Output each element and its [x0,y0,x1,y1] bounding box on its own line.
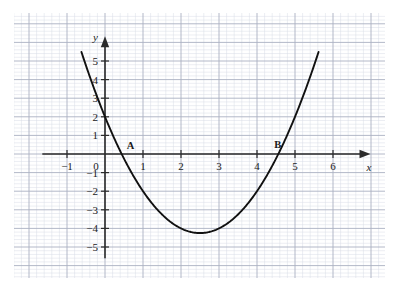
x-tick-label: 5 [292,160,298,172]
y-tick-label: 4 [93,74,99,86]
x-axis-label: x [366,161,372,173]
y-tick-label: 5 [93,55,99,67]
y-axis-label: y [92,31,98,43]
y-tick-label: −2 [86,185,98,197]
coordinate-plot: −10123456 −5−4−3−2−112345 x y AB [0,0,399,294]
x-tick-label: 4 [254,160,260,172]
x-tick-label: 3 [216,160,222,172]
y-tick-label: 2 [93,111,99,123]
x-tick-label: −1 [61,160,73,172]
x-tick-label: 6 [330,160,336,172]
y-tick-label: 1 [93,129,99,141]
point-label-b: B [274,139,281,150]
graph-figure: −10123456 −5−4−3−2−112345 x y AB [0,0,399,294]
plot-background [0,0,399,294]
point-label-a: A [127,140,135,151]
y-tick-label: −3 [86,204,98,216]
y-tick-label: −1 [86,167,98,179]
y-tick-label: −4 [86,222,98,234]
x-tick-label: 1 [140,160,146,172]
x-tick-label: 2 [178,160,184,172]
y-tick-label: −5 [86,241,98,253]
